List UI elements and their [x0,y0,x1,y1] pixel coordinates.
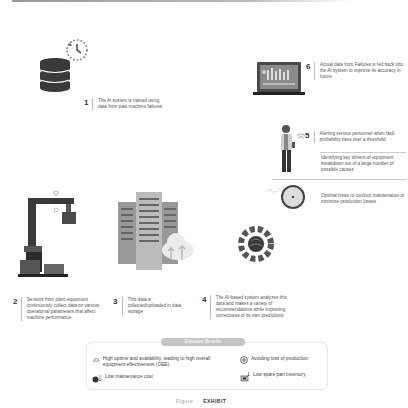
top-rule [12,0,352,2]
divider [92,98,93,110]
step-1: 1 The AI system is trained using data fr… [84,98,164,110]
step-text: Sensors from plant equipment continuousl… [27,297,113,321]
benefit-item: Avoiding loss of production [240,356,330,364]
benefit-text: Low maintenance cost [105,374,153,380]
benefit-item: Low spare part inventory [240,372,330,382]
no-loss-icon [240,356,248,364]
step-3: 3 This data is collected/uploaded in dat… [113,297,187,315]
step-4: 4 The AI-based system analyzes this data… [202,295,294,319]
step-number: 3 [113,297,118,307]
benefits-title: Expected Benefits [161,338,245,346]
step-6: 6 Actual data from Failures is fed back … [306,62,406,80]
benefit-text: Avoiding loss of production [251,356,308,362]
step-number: 2 [13,297,17,307]
laptop-dashboard-icon [253,60,305,98]
caption-title: EXHIBIT [203,398,226,404]
step-text: The AI system is trained using data from… [98,98,164,110]
inventory-down-icon [240,372,250,382]
benefit-text: High uptime and availability, leading to… [103,356,223,368]
separator [272,179,406,180]
benefit-text: Low spare part inventory [253,372,306,378]
step-number: 6 [306,62,310,72]
separator [320,152,406,153]
database-icon [38,57,72,93]
money-down-icon [92,374,102,383]
recommendation-text: Identifying key drivers of equipment bre… [321,155,407,173]
wave-icon [266,186,284,194]
step-text: Actual data from Failures is fed back in… [320,62,406,80]
ai-gear-brain-icon [234,222,278,266]
benefit-item: Low maintenance cost [92,374,212,383]
benefit-item: High uptime and availability, leading to… [93,356,223,368]
recommendation-text: Optimal times to conduct maintenance to … [321,193,407,205]
step-number: 1 [84,98,88,108]
step-number: 5 [305,131,310,141]
divider [122,297,123,315]
gauge-icon [93,356,100,363]
step-text: Alerting service personnel when fault pr… [320,131,407,143]
step-2: 2 Sensors from plant equipment continuou… [13,297,113,321]
step-text: This data is collected/uploaded in data … [128,297,187,315]
figure-caption: FigureEXHIBIT [176,398,226,404]
step-number: 4 [202,295,206,305]
server-cloud-icon [116,190,196,272]
caption-prefix: Figure [176,398,193,404]
step-text: The AI-based system analyzes this data a… [216,295,294,319]
robot-arm-icon [18,190,78,278]
divider [314,131,315,143]
step-5: 5 Alerting service personnel when fault … [305,131,407,143]
